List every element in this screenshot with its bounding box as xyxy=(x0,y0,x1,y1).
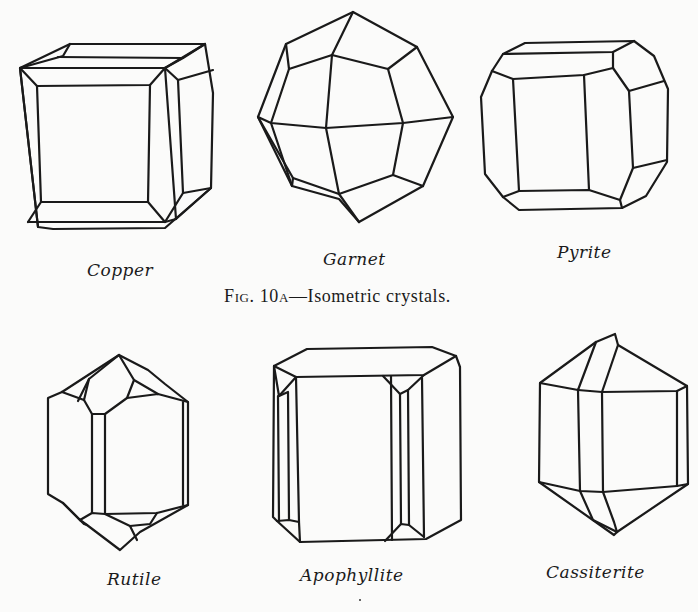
crystal-label-pyrite: Pyrite xyxy=(557,242,612,262)
caption-fig-number: . 10 xyxy=(250,286,279,306)
cassiterite-crystal-drawing xyxy=(539,334,688,535)
pyrite-crystal-drawing xyxy=(481,41,668,210)
crystal-label-copper: Copper xyxy=(87,260,153,280)
figure-caption: FIG. 10A—Isometric crystals. xyxy=(224,286,451,307)
caption-fig-suffix: A xyxy=(279,290,289,305)
crystal-label-cassiterite: Cassiterite xyxy=(546,562,645,582)
print-speck xyxy=(359,599,361,601)
crystal-label-garnet: Garnet xyxy=(323,249,386,269)
caption-fig-initial: F xyxy=(224,286,235,306)
caption-fig-smallcaps: IG xyxy=(235,290,250,305)
rutile-crystal-drawing xyxy=(48,355,188,550)
caption-text: —Isometric crystals. xyxy=(289,286,451,306)
apophyllite-crystal-drawing xyxy=(273,347,461,542)
copper-crystal-drawing xyxy=(20,44,213,229)
crystal-label-rutile: Rutile xyxy=(107,569,162,589)
garnet-crystal-drawing xyxy=(258,12,453,222)
crystal-label-apophyllite: Apophyllite xyxy=(300,565,404,585)
